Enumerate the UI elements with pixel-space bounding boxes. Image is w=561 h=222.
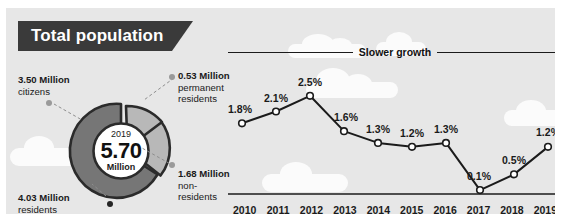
infographic-canvas: Total population 2019 5.70 Million 3.5 [6, 8, 555, 214]
chart-point-label: 0.1% [467, 170, 492, 182]
chart-point-label: 1.2% [536, 126, 555, 138]
chart-header: Slower growth [228, 44, 555, 60]
chart-data-point[interactable] [307, 92, 314, 99]
callout-permanent-value: 0.53 Million [178, 70, 230, 81]
callout-nonresidents-dot [169, 162, 175, 168]
chart-series-line [242, 96, 548, 190]
chart-x-axis: 2010201120122013201420152016201720182019 [228, 204, 555, 214]
callout-permanent-dot [169, 74, 175, 80]
leader-line-permanent [144, 78, 174, 100]
callout-residents: 4.03 Million residents [18, 192, 102, 214]
callout-nonresidents-text2: residents [178, 191, 217, 202]
chart-data-point[interactable] [273, 108, 280, 115]
callout-nonresidents-value: 1.68 Million [178, 168, 230, 179]
chart-x-tick-label: 2015 [395, 204, 428, 214]
chart-x-tick-label: 2012 [295, 204, 328, 214]
callout-residents-dot [107, 201, 113, 207]
callout-residents-text: residents [18, 204, 57, 214]
chart-x-tick-label: 2019 [529, 204, 555, 214]
chart-point-label: 1.2% [400, 127, 425, 139]
chart-point-label: 1.6% [334, 111, 359, 123]
chart-x-tick-label: 2013 [328, 204, 361, 214]
chart-x-tick-label: 2018 [495, 204, 528, 214]
chart-data-point[interactable] [409, 144, 416, 151]
chart-data-point[interactable] [239, 120, 246, 127]
chart-rule-left [228, 52, 353, 53]
chart-data-point[interactable] [511, 171, 518, 178]
chart-x-tick-label: 2010 [228, 204, 261, 214]
callout-nonresidents-text1: non- [178, 180, 197, 191]
chart-point-label: 1.8% [228, 103, 253, 115]
chart-rule-right [437, 52, 555, 53]
chart-x-tick-label: 2011 [261, 204, 294, 214]
chart-x-tick-label: 2017 [462, 204, 495, 214]
chart-data-point[interactable] [375, 140, 382, 147]
chart-point-label: 2.5% [298, 76, 323, 88]
callout-residents-value: 4.03 Million [18, 192, 70, 203]
infographic-root: Total population 2019 5.70 Million 3.5 [0, 0, 561, 222]
callout-permanent-text1: permanent [178, 82, 224, 93]
chart-x-tick-label: 2016 [428, 204, 461, 214]
chart-data-point[interactable] [477, 187, 484, 194]
chart-point-label: 0.5% [502, 154, 527, 166]
callout-permanent-text2: residents [178, 93, 217, 104]
chart-data-point[interactable] [341, 128, 348, 135]
chart-data-point[interactable] [545, 144, 552, 151]
leader-line-citizens [54, 104, 82, 120]
growth-line-chart: Slower growth 1.8%2.1%2.5%1.6%1.3%1.2%1.… [228, 44, 555, 214]
chart-title: Slower growth [359, 46, 431, 58]
chart-point-label: 1.3% [434, 123, 459, 135]
chart-point-label: 2.1% [264, 92, 289, 104]
chart-point-label: 1.3% [366, 123, 391, 135]
chart-plot-area: 1.8%2.1%2.5%1.6%1.3%1.2%1.3%0.1%0.5%1.2% [228, 62, 555, 202]
chart-data-point[interactable] [443, 140, 450, 147]
chart-x-tick-label: 2014 [362, 204, 395, 214]
